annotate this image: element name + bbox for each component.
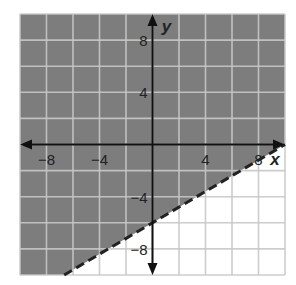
x-tick-label: 4 [201, 151, 209, 168]
y-tick-label: −8 [130, 241, 147, 258]
y-tick-label: 8 [139, 32, 147, 49]
y-tick-label: −4 [130, 189, 147, 206]
x-tick-label: −8 [38, 151, 55, 168]
x-tick-label: 8 [254, 151, 262, 168]
y-tick-label: 4 [139, 84, 147, 101]
x-tick-label: −4 [91, 151, 108, 168]
x-axis-label: x [269, 150, 281, 169]
y-axis-label: y [161, 17, 173, 36]
inequality-graph: −8−44884−4−8xy [0, 0, 296, 285]
